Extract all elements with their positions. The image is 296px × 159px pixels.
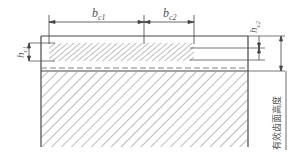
section-diagram: bc1 bc2 hc1 hc2 有效齿面高度 bbox=[0, 0, 296, 159]
core-section bbox=[41, 72, 248, 147]
label-b-c1: bc1 bbox=[92, 6, 106, 22]
label-h-c2: hc2 bbox=[247, 20, 262, 33]
label-h-c1: hc1 bbox=[14, 46, 29, 58]
label-effective-depth: 有效齿面高度 bbox=[271, 96, 282, 150]
hardened-layer-1 bbox=[49, 43, 148, 61]
label-b-c2: bc2 bbox=[163, 6, 177, 22]
hardened-layer-2 bbox=[148, 43, 194, 61]
